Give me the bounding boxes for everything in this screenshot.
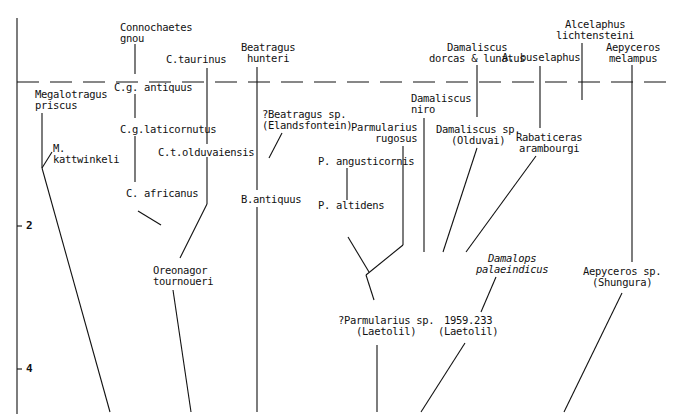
- phylogeny-diagram: 2 4 Megalotragus priscus M. kattwinkeli …: [0, 0, 680, 414]
- label-beatragus-hunteri: Beatragus hunteri: [241, 42, 295, 64]
- label-rabaticeras-arambourgi: Rabaticeras arambourgi: [516, 132, 582, 154]
- label-damalops-palaeindicus: Damalops palaeindicus: [476, 253, 548, 275]
- label-aepyceros-melampus: Aepyceros melampus: [606, 42, 660, 64]
- label-p-angusticornis: P. angusticornis: [318, 156, 414, 167]
- label-damaliscus-sp-olduvai: Damaliscus sp. (Olduvai): [436, 124, 520, 146]
- label-c-taurinus: C.taurinus: [166, 54, 226, 65]
- label-damaliscus-niro: Damaliscus niro: [411, 93, 471, 115]
- label-connochaetes-gnou: Connochaetes gnou: [120, 22, 192, 44]
- label-a-buselaphus: A. buselaphus: [502, 52, 580, 63]
- label-megalotragus-priscus: Megalotragus priscus: [35, 89, 107, 111]
- label-beatragus-sp-elandsfontein: ?Beatragus sp. (Elandsfontein): [262, 109, 352, 131]
- time-tick-4-label: 4: [26, 362, 33, 375]
- label-alcelaphus-lichtensteini: Alcelaphus lichtensteini: [556, 19, 634, 41]
- label-parmularius-rugosus: Parmularius rugosus: [351, 122, 417, 144]
- label-c-africanus: C. africanus: [126, 188, 198, 199]
- time-tick-2-label: 2: [26, 219, 33, 232]
- label-b-antiquus: B.antiquus: [241, 194, 301, 205]
- label-p-altidens: P. altidens: [318, 200, 384, 211]
- label-1959-233-laetolil: 1959.233 (Laetolil): [438, 315, 498, 337]
- label-cg-laticornutus: C.g.laticornutus: [120, 124, 216, 135]
- label-ct-olduvaiensis: C.t.olduvaiensis: [158, 147, 254, 158]
- label-m-kattwinkeli: M. kattwinkeli: [53, 143, 119, 165]
- label-parmularius-sp-laetolil: ?Parmularius sp. (Laetolil): [338, 315, 434, 337]
- label-cg-antiquus: C.g. antiquus: [114, 82, 192, 93]
- label-aepyceros-sp-shungura: Aepyceros sp. (Shungura): [583, 266, 661, 288]
- label-oreonagor-tournoueri: Oreonagor tournoueri: [153, 265, 213, 287]
